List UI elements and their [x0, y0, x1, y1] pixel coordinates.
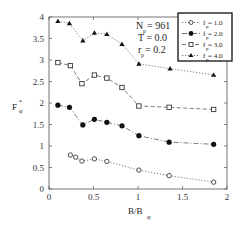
open-square-marker: [105, 76, 109, 80]
open-square-marker: [120, 85, 124, 89]
series-f2: [55, 103, 216, 147]
y-axis-label-sup: *: [19, 99, 22, 105]
filled-circle-marker: [189, 31, 194, 36]
open-square-marker: [137, 104, 141, 108]
x-axis-label: B/B φ: [128, 206, 151, 220]
x-tick-label: 2: [225, 192, 230, 202]
filled-triangle-marker: [104, 32, 109, 36]
open-circle-marker: [105, 159, 109, 163]
y-axis-label-main: F: [12, 102, 17, 112]
open-square-marker: [92, 73, 96, 77]
filled-circle-marker: [80, 122, 85, 127]
filled-circle-marker: [55, 103, 60, 108]
open-square-marker: [80, 81, 84, 85]
open-circle-marker: [68, 153, 72, 157]
x-tick-label: 1: [136, 192, 141, 202]
parameter-annotation: N p = 961 T = 0.0 r p = 0.2: [136, 20, 170, 58]
x-axis-label-sub: φ: [147, 214, 151, 220]
filled-triangle-marker: [167, 66, 172, 70]
series-f3: [56, 60, 216, 111]
legend-label-2-value: = 2.0: [208, 30, 223, 38]
annotation-rp-sub: p: [141, 52, 144, 58]
x-tick-label: 1.5: [177, 192, 189, 202]
open-square-marker: [167, 105, 171, 109]
legend-label-3-value: = 3.0: [208, 41, 223, 49]
y-tick-label: 2.5: [33, 77, 45, 87]
filled-circle-marker: [104, 120, 109, 125]
filled-triangle-marker: [55, 19, 60, 23]
open-circle-marker: [80, 159, 84, 163]
legend-label-4-value: = 4.0: [208, 52, 223, 60]
filled-circle-marker: [211, 142, 216, 147]
filled-circle-marker: [167, 140, 172, 145]
chart: 00.511.5200.511.522.533.54 F * φ B/B φ N…: [0, 0, 242, 230]
open-circle-marker: [189, 21, 193, 25]
series-f1: [68, 153, 216, 184]
y-tick-label: 0.5: [33, 163, 45, 173]
y-tick-label: 1: [40, 141, 45, 151]
open-circle-marker: [74, 155, 78, 159]
x-axis-label-main: B/B: [128, 206, 143, 216]
open-square-marker: [68, 63, 72, 67]
filled-triangle-marker: [92, 30, 97, 34]
filled-circle-marker: [119, 123, 124, 128]
x-tick-label: 0.5: [88, 192, 100, 202]
filled-circle-marker: [136, 133, 141, 138]
y-tick-label: 3.5: [33, 34, 45, 44]
y-tick-label: 0: [40, 184, 45, 194]
annotation-rp-value: = 0.2: [145, 44, 166, 55]
y-axis-label: F * φ: [12, 99, 23, 114]
filled-circle-marker: [67, 105, 72, 110]
open-square-marker: [189, 43, 193, 47]
annotation-t: T = 0.0: [138, 32, 167, 43]
filled-circle-marker: [92, 117, 97, 122]
y-tick-label: 2: [40, 98, 45, 108]
x-tick-label: 0: [47, 192, 52, 202]
y-tick-label: 3: [40, 55, 45, 65]
filled-triangle-marker: [119, 41, 124, 45]
y-tick-label: 1.5: [33, 120, 45, 130]
open-square-marker: [56, 60, 60, 64]
legend: f p = 1.0 f p = 2.0 f p = 3.0 f p = 4.0: [178, 13, 232, 62]
filled-triangle-marker: [136, 61, 141, 65]
y-tick-label: 4: [40, 12, 45, 22]
open-circle-marker: [137, 168, 141, 172]
annotation-np-value: = 961: [147, 20, 170, 31]
open-circle-marker: [211, 180, 215, 184]
legend-label-1-value: = 1.0: [208, 19, 223, 27]
open-circle-marker: [167, 173, 171, 177]
open-square-marker: [211, 107, 215, 111]
open-circle-marker: [92, 157, 96, 161]
y-axis-label-sub: φ: [19, 108, 23, 114]
